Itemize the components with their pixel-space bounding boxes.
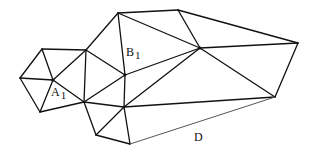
label-a1-main: A (51, 85, 60, 99)
label-a1: A1 (51, 85, 66, 100)
triangulation-diagram (0, 0, 315, 156)
label-a1-sub: 1 (61, 89, 67, 101)
label-d-main: D (194, 130, 203, 144)
label-d: D (194, 130, 203, 145)
label-b1-main: B (126, 45, 134, 59)
label-b1-sub: 1 (135, 49, 141, 61)
label-b1: B1 (126, 45, 141, 60)
